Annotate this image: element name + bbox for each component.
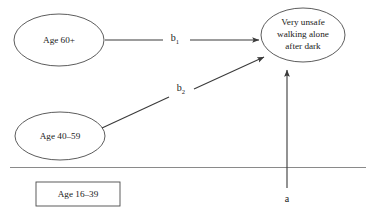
outcome-label-line-2: walking alone: [277, 29, 329, 39]
edge-b2-label: b2: [177, 82, 185, 94]
diagram-canvas: Age 60+ Age 40–59 Age 16–39 Very unsafe …: [0, 0, 375, 214]
age-16-39-label: Age 16–39: [58, 189, 99, 199]
outcome-label-line-1: Very unsafe: [281, 17, 325, 27]
age-40-59-label: Age 40–59: [40, 131, 81, 141]
edge-b2[interactable]: b2: [102, 57, 264, 128]
edge-b1-label-subscript: 1: [176, 37, 179, 44]
path-diagram: Age 60+ Age 40–59 Age 16–39 Very unsafe …: [0, 0, 375, 214]
edge-b2-segment-lower: [102, 97, 169, 128]
edge-b2-segment-upper: [194, 57, 264, 89]
edge-a-label: a: [285, 193, 290, 204]
node-age-16-39[interactable]: Age 16–39: [36, 182, 120, 206]
edge-b1-label: b1: [171, 32, 179, 44]
edge-b1[interactable]: b1: [105, 32, 259, 44]
node-age-60-plus[interactable]: Age 60+: [14, 14, 104, 66]
node-age-40-59[interactable]: Age 40–59: [15, 112, 105, 160]
outcome-label-line-3: after dark: [285, 41, 321, 51]
edge-b2-label-subscript: 2: [182, 87, 185, 94]
age-60-plus-label: Age 60+: [43, 35, 75, 45]
node-outcome[interactable]: Very unsafe walking alone after dark: [261, 8, 345, 62]
edge-a[interactable]: a: [285, 70, 290, 204]
